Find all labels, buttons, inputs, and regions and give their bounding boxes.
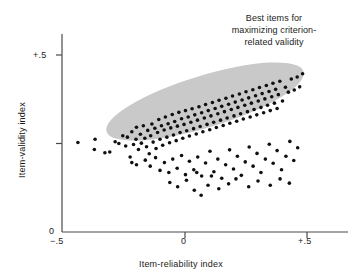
data-point xyxy=(238,92,242,96)
data-point xyxy=(189,120,193,124)
data-point xyxy=(284,154,288,158)
data-point xyxy=(161,143,165,147)
data-point xyxy=(278,79,282,83)
data-point xyxy=(176,185,180,189)
data-point xyxy=(196,118,200,122)
data-point xyxy=(266,103,270,107)
data-point xyxy=(268,183,272,187)
data-point xyxy=(252,108,256,112)
data-point xyxy=(254,94,258,98)
data-point xyxy=(130,161,134,165)
data-point xyxy=(281,99,285,103)
data-point xyxy=(236,106,240,110)
data-point xyxy=(284,85,288,89)
axis-group xyxy=(56,34,348,238)
data-point xyxy=(184,109,188,113)
data-point xyxy=(205,123,209,127)
data-point xyxy=(185,129,189,133)
data-point xyxy=(298,85,302,89)
data-point xyxy=(192,127,196,131)
data-point xyxy=(158,169,162,173)
data-point xyxy=(93,148,97,152)
data-point xyxy=(288,140,292,144)
data-point xyxy=(195,171,199,175)
data-point xyxy=(206,109,210,113)
data-point xyxy=(204,103,208,107)
data-point xyxy=(113,140,117,144)
data-point xyxy=(271,162,275,166)
data-point xyxy=(126,135,130,139)
x-axis-tick-label-zero: 0 xyxy=(181,236,186,246)
data-point xyxy=(174,139,178,143)
x-axis-title: Item-reliability index xyxy=(139,259,223,269)
data-point xyxy=(177,111,181,115)
data-point xyxy=(244,90,248,94)
data-point xyxy=(239,112,243,116)
data-point xyxy=(196,155,200,159)
data-point xyxy=(185,179,189,183)
data-point xyxy=(258,86,262,90)
y-axis-tick-label-pos-half: +.5 xyxy=(33,50,46,60)
data-point xyxy=(181,136,185,140)
data-point xyxy=(175,166,179,170)
data-point xyxy=(292,88,296,92)
data-point xyxy=(264,157,268,161)
callout-line-2: maximizing criterion- xyxy=(203,24,345,36)
data-point xyxy=(220,105,224,109)
data-point xyxy=(170,113,174,117)
data-point xyxy=(212,120,216,124)
data-point xyxy=(223,110,227,114)
data-point xyxy=(193,188,197,192)
data-point xyxy=(93,137,97,141)
data-point xyxy=(243,103,247,107)
callout-line-3: related validity xyxy=(203,36,345,48)
data-point xyxy=(204,161,208,165)
data-point xyxy=(162,128,166,132)
data-point xyxy=(256,99,260,103)
data-point xyxy=(216,157,220,161)
data-point xyxy=(251,164,255,168)
data-point xyxy=(134,137,138,141)
data-point xyxy=(267,142,271,146)
data-point xyxy=(182,123,186,127)
highlight-ellipse-group xyxy=(99,47,311,157)
data-point xyxy=(255,113,259,117)
data-point xyxy=(146,129,150,133)
data-point xyxy=(124,144,128,148)
data-point xyxy=(210,174,214,178)
data-point xyxy=(165,135,169,139)
data-point xyxy=(147,152,151,156)
data-point xyxy=(216,112,220,116)
data-point xyxy=(137,148,141,152)
data-point xyxy=(280,168,284,172)
data-point xyxy=(166,122,170,126)
data-point xyxy=(176,124,180,128)
data-point xyxy=(268,109,272,113)
data-point xyxy=(163,161,167,165)
data-point xyxy=(103,151,107,155)
data-point xyxy=(151,140,155,144)
data-point xyxy=(194,132,198,136)
data-point xyxy=(212,170,216,174)
data-point xyxy=(247,185,251,189)
data-point xyxy=(219,118,223,122)
data-point xyxy=(267,90,271,94)
data-point xyxy=(197,105,201,109)
data-point xyxy=(76,141,80,145)
data-point xyxy=(108,150,112,154)
data-point xyxy=(156,131,160,135)
data-point xyxy=(192,168,196,172)
data-point xyxy=(255,152,259,156)
data-point xyxy=(188,159,192,163)
data-point xyxy=(132,143,136,147)
data-point xyxy=(198,125,202,129)
data-point xyxy=(203,116,207,120)
data-point xyxy=(290,77,294,81)
data-point xyxy=(208,128,212,132)
data-point xyxy=(275,149,279,153)
data-point xyxy=(209,114,213,118)
data-point xyxy=(171,157,175,161)
data-point xyxy=(236,154,240,158)
data-point xyxy=(128,155,132,159)
data-point xyxy=(260,92,264,96)
